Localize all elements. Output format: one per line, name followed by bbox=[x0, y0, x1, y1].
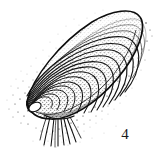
figure-panel: 4 bbox=[0, 0, 158, 151]
figure-number-label: 4 bbox=[114, 125, 136, 143]
